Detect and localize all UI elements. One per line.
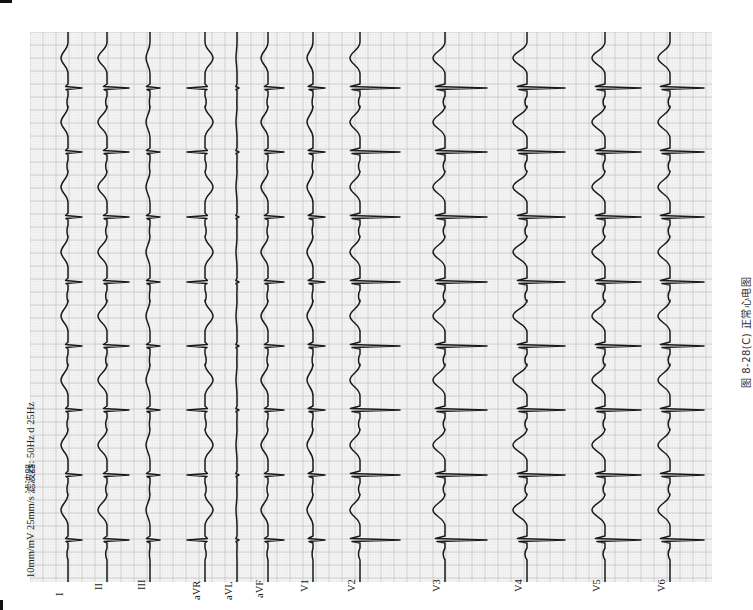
ecg-traces xyxy=(30,32,712,582)
ecg-trace-avr xyxy=(187,32,213,582)
recording-settings: 10mm/mV 25mm/s 滤波器: 50Hz d 25Hz xyxy=(22,402,37,578)
lead-label-ii: II xyxy=(93,583,104,590)
lead-label-v2: V2 xyxy=(346,579,357,592)
ecg-trace-ii xyxy=(98,32,129,582)
page-edge-mark xyxy=(0,0,12,3)
ecg-trace-v4 xyxy=(513,32,565,582)
figure-caption: 图 8-28(C) 正常心电图 xyxy=(738,277,753,388)
lead-label-v3: V3 xyxy=(431,579,442,592)
ecg-trace-avl xyxy=(236,32,239,582)
lead-label-v6: V6 xyxy=(656,579,667,592)
ecg-trace-i xyxy=(61,32,82,582)
page-edge-mark xyxy=(0,600,3,610)
lead-label-avr: aVR xyxy=(191,581,202,600)
lead-label-iii: III xyxy=(136,580,147,591)
lead-label-v4: V4 xyxy=(513,579,524,592)
lead-label-avf: aVF xyxy=(254,580,265,598)
lead-label-avl: aVL xyxy=(223,581,234,600)
ecg-trace-avf xyxy=(261,32,284,582)
ecg-trace-v6 xyxy=(658,32,704,582)
lead-label-i: I xyxy=(54,593,65,597)
ecg-trace-iii xyxy=(146,32,160,582)
lead-label-v1: V1 xyxy=(299,579,310,592)
ecg-strip xyxy=(30,32,712,582)
lead-label-v5: V5 xyxy=(591,579,602,592)
ecg-trace-v5 xyxy=(592,32,641,582)
ecg-grid xyxy=(30,32,712,582)
ecg-trace-v2 xyxy=(350,32,400,582)
ecg-trace-v3 xyxy=(433,32,487,582)
